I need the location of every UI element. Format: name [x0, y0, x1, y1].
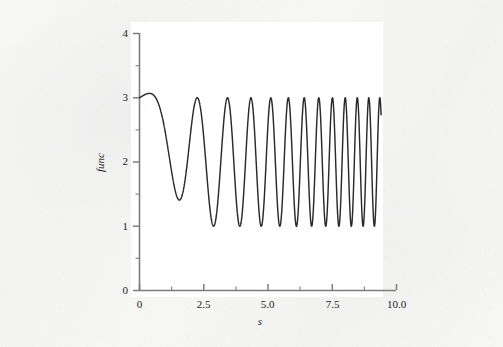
- scanned-page: 4 3 2 1 0 0 2.5 5.0 7.5 10.0 func s: [0, 0, 503, 347]
- x-axis-major-ticks: [140, 284, 397, 290]
- data-series-func: [140, 93, 382, 226]
- chart-figure: [0, 0, 503, 347]
- y-axis-major-ticks: [133, 34, 139, 291]
